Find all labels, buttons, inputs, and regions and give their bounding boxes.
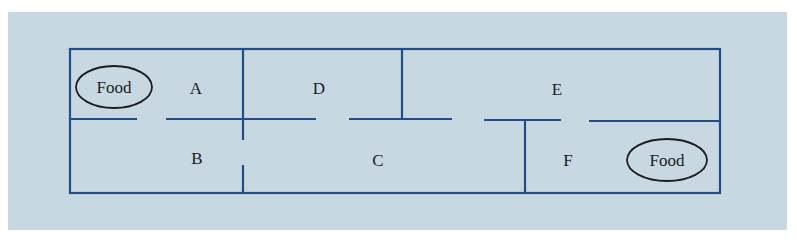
room-label-a: A — [190, 79, 203, 98]
room-label-d: D — [313, 79, 325, 98]
room-label-b: B — [191, 149, 202, 168]
maze-diagram: Food Food A B C D E F — [0, 0, 797, 242]
room-label-c: C — [372, 151, 383, 170]
food-label-room-f: Food — [650, 151, 685, 170]
food-label-room-a: Food — [97, 78, 132, 97]
room-label-e: E — [552, 80, 562, 99]
room-label-f: F — [563, 151, 572, 170]
walls — [70, 49, 720, 193]
